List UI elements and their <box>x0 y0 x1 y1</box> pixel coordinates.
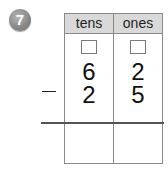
answer-tens-cell[interactable] <box>65 134 113 160</box>
header-tens: tens <box>65 14 113 33</box>
problem-number-badge: 7 <box>9 9 31 31</box>
regroup-box-tens[interactable] <box>81 40 97 54</box>
answer-ones-cell[interactable] <box>114 134 162 160</box>
subtrahend-ones-digit: 5 <box>114 83 162 107</box>
answer-line <box>41 122 164 124</box>
place-value-table: tens ones 6 2 2 5 <box>64 13 163 164</box>
minus-sign-icon <box>42 91 56 92</box>
header-ones: ones <box>114 14 162 33</box>
regroup-box-ones[interactable] <box>130 40 146 54</box>
subtrahend-tens-digit: 2 <box>65 83 113 107</box>
